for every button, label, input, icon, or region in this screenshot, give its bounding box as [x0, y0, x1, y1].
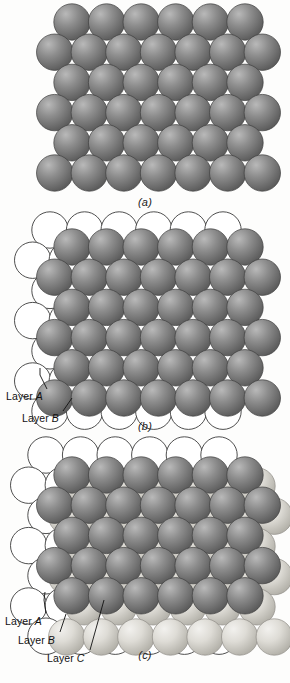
- label-prefix: Layer: [22, 412, 52, 424]
- sphere-B-r5-c2: [106, 380, 142, 416]
- sphere-A-r5-c3: [140, 155, 176, 191]
- sphere-A-r5-c1: [71, 155, 107, 191]
- label-letter: B: [52, 412, 59, 424]
- label-panel-c-layer-b: Layer B: [18, 634, 55, 646]
- sphere-C-r4-c4: [192, 578, 228, 614]
- label-panel-b-layer-a: Layer A: [6, 390, 43, 402]
- label-letter: B: [48, 634, 55, 646]
- label-prefix: Layer: [18, 634, 48, 646]
- panel-c: (c): [0, 453, 290, 683]
- label-prefix: Layer: [47, 652, 77, 664]
- label-panel-b-layer-b: Layer B: [22, 412, 59, 424]
- sphere-A-r5-c5: [210, 155, 246, 191]
- label-panel-c-layer-c: Layer C: [47, 652, 84, 664]
- label-prefix: Layer: [6, 390, 36, 402]
- sphere-B-r5-c4: [175, 380, 211, 416]
- caption-c: (c): [0, 649, 290, 661]
- sphere-A-r5-c2: [106, 155, 142, 191]
- caption-a: (a): [0, 196, 290, 208]
- sphere-A-r5-c0: [37, 155, 73, 191]
- label-letter: C: [77, 652, 85, 664]
- sphere-A-r5-c4: [175, 155, 211, 191]
- sphere-C-r4-c3: [158, 578, 194, 614]
- sphere-C-r4-c1: [88, 578, 124, 614]
- panel-b-sphere-field: [0, 225, 290, 425]
- panel-a: (a): [0, 0, 290, 225]
- label-letter: A: [35, 615, 42, 627]
- sphere-A-r5-c6: [244, 155, 280, 191]
- panel-c-sphere-field: [0, 453, 290, 658]
- sphere-C-r4-c2: [123, 578, 159, 614]
- sphere-C-r4-c5: [227, 578, 263, 614]
- panel-a-stage: [0, 0, 290, 225]
- close-packed-planes-figure: (a) (b) (c) Layer A Layer B Layer A Laye…: [0, 0, 290, 683]
- label-prefix: Layer: [5, 615, 35, 627]
- panel-a-sphere-field: [0, 0, 290, 200]
- label-panel-c-layer-a: Layer A: [5, 615, 42, 627]
- sphere-B-r5-c5: [210, 380, 246, 416]
- sphere-C-r4-c0: [54, 578, 90, 614]
- sphere-B-r5-c1: [71, 380, 107, 416]
- sphere-B-r5-c3: [140, 380, 176, 416]
- label-letter: A: [36, 390, 43, 402]
- sphere-B-r5-c6: [244, 380, 280, 416]
